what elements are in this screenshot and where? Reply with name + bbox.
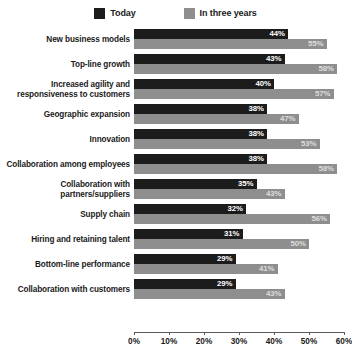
category-label-line: Increased agility and <box>51 80 130 90</box>
category-label: Geographic expansion <box>0 102 133 127</box>
bar-group-row: Innovation38%53% <box>0 127 351 152</box>
bar-value-label: 35% <box>238 179 257 189</box>
x-axis-tick-label: 60% <box>336 337 352 346</box>
bar-value-label: 53% <box>301 139 320 149</box>
bar-value-label: 57% <box>315 89 334 99</box>
bar-pair: 43%58% <box>134 54 351 75</box>
x-axis-tick <box>344 332 345 335</box>
bar-pair: 44%55% <box>134 29 351 50</box>
bar-value-label: 56% <box>311 214 330 224</box>
bar-today: 40% <box>134 79 274 89</box>
x-axis-tick-label: 50% <box>301 337 317 346</box>
bar-pair: 35%43% <box>134 179 351 200</box>
x-axis-tick-label: 20% <box>196 337 212 346</box>
bar-value-label: 44% <box>269 29 288 39</box>
category-label: Bottom-line performance <box>0 252 133 277</box>
category-label: Collaboration among employees <box>0 152 133 177</box>
x-axis-tick <box>239 332 240 335</box>
category-label: Hiring and retaining talent <box>0 227 133 252</box>
bar-group-row: Collaboration among employees38%58% <box>0 152 351 177</box>
bar-group-row: Hiring and retaining talent31%50% <box>0 227 351 252</box>
bar-pair: 38%47% <box>134 104 351 125</box>
bar-value-label: 43% <box>266 189 285 199</box>
x-axis-tick-label: 0% <box>128 337 140 346</box>
bar-today: 32% <box>134 204 246 214</box>
bar-pair: 29%43% <box>134 279 351 300</box>
bar-in-three-years: 58% <box>134 64 337 74</box>
x-axis-tick <box>169 332 170 335</box>
bar-value-label: 58% <box>318 64 337 74</box>
category-label-line: Collaboration with <box>60 180 130 190</box>
category-label: Innovation <box>0 127 133 152</box>
bar-today: 43% <box>134 54 285 64</box>
bar-today: 29% <box>134 254 236 264</box>
category-label-line: Top-line growth <box>71 60 130 70</box>
legend-label: In three years <box>200 8 257 18</box>
bar-value-label: 38% <box>248 129 267 139</box>
category-label-line: responsiveness to customers <box>17 90 130 100</box>
bar-pair: 31%50% <box>134 229 351 250</box>
category-label-line: partners/suppliers <box>60 190 130 200</box>
bar-group-row: Supply chain32%56% <box>0 202 351 227</box>
legend-label: Today <box>110 8 135 18</box>
bar-today: 31% <box>134 229 243 239</box>
bar-value-label: 38% <box>248 104 267 114</box>
bar-group-row: Collaboration withpartners/suppliers35%4… <box>0 177 351 202</box>
bar-in-three-years: 43% <box>134 189 285 199</box>
bar-value-label: 47% <box>280 114 299 124</box>
bar-in-three-years: 50% <box>134 239 309 249</box>
square-swatch-icon <box>184 8 195 19</box>
bar-value-label: 55% <box>308 39 327 49</box>
bar-value-label: 41% <box>259 264 278 274</box>
bar-group-row: Collaboration with customers29%43% <box>0 277 351 302</box>
bar-today: 29% <box>134 279 236 289</box>
square-swatch-icon <box>94 8 105 19</box>
category-label: Collaboration with customers <box>0 277 133 302</box>
bar-group-row: Geographic expansion38%47% <box>0 102 351 127</box>
category-label: New business models <box>0 27 133 52</box>
bar-today: 44% <box>134 29 288 39</box>
bar-today: 38% <box>134 129 267 139</box>
x-axis-tick <box>309 332 310 335</box>
bar-value-label: 40% <box>255 79 274 89</box>
category-label: Increased agility andresponsiveness to c… <box>0 77 133 102</box>
bar-pair: 29%41% <box>134 254 351 275</box>
category-label: Collaboration withpartners/suppliers <box>0 177 133 202</box>
bar-in-three-years: 53% <box>134 139 320 149</box>
bar-value-label: 32% <box>227 204 246 214</box>
category-label-line: Bottom-line performance <box>35 260 130 270</box>
bar-in-three-years: 56% <box>134 214 330 224</box>
category-label: Top-line growth <box>0 52 133 77</box>
bar-pair: 32%56% <box>134 204 351 225</box>
bar-today: 38% <box>134 104 267 114</box>
category-label-line: Supply chain <box>80 210 130 220</box>
x-axis-line <box>134 332 344 333</box>
bar-value-label: 29% <box>217 279 236 289</box>
bar-group-row: Top-line growth43%58% <box>0 52 351 77</box>
category-label-line: Collaboration with customers <box>18 285 130 295</box>
x-axis-tick-label: 30% <box>231 337 247 346</box>
x-axis-tick-label: 40% <box>266 337 282 346</box>
bar-today: 38% <box>134 154 267 164</box>
bar-in-three-years: 47% <box>134 114 299 124</box>
bar-value-label: 43% <box>266 289 285 299</box>
bar-value-label: 50% <box>290 239 309 249</box>
category-label-line: Collaboration among employees <box>6 160 130 170</box>
chart-legend: TodayIn three years <box>0 5 351 21</box>
bar-in-three-years: 55% <box>134 39 327 49</box>
bar-in-three-years: 43% <box>134 289 285 299</box>
category-label: Supply chain <box>0 202 133 227</box>
legend-entry: In three years <box>184 8 257 19</box>
bar-value-label: 58% <box>318 164 337 174</box>
bar-pair: 38%58% <box>134 154 351 175</box>
bar-today: 35% <box>134 179 257 189</box>
category-label-line: Innovation <box>90 135 130 145</box>
bar-group-row: Bottom-line performance29%41% <box>0 252 351 277</box>
bar-value-label: 43% <box>266 54 285 64</box>
chart-plot-area: New business models44%55%Top-line growth… <box>0 27 351 333</box>
category-label-line: Hiring and retaining talent <box>31 235 130 245</box>
bar-value-label: 31% <box>224 229 243 239</box>
x-axis-tick <box>204 332 205 335</box>
bar-group-row: New business models44%55% <box>0 27 351 52</box>
x-axis-tick <box>134 332 135 335</box>
